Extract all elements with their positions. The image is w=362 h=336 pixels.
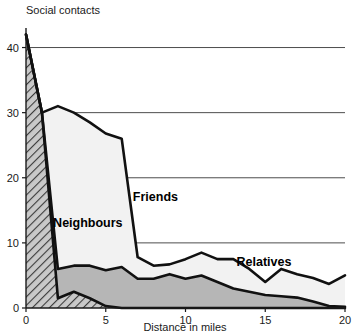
y-axis-title: Social contacts	[26, 4, 100, 16]
chart-container: 05101520 010203040 Social contacts Dista…	[0, 0, 362, 336]
label-friends: Friends	[133, 190, 178, 204]
label-relatives: Relatives	[237, 255, 292, 269]
y-axis-ticks: 010203040	[7, 42, 26, 314]
label-neighbours: Neighbours	[53, 216, 122, 230]
x-axis-title: Distance in miles	[143, 321, 227, 333]
y-tick-label-30: 30	[7, 107, 19, 119]
y-tick-label-10: 10	[7, 237, 19, 249]
x-tick-label-5: 5	[103, 314, 109, 326]
y-tick-label-40: 40	[7, 42, 19, 54]
x-tick-label-20: 20	[339, 314, 351, 326]
y-tick-label-0: 0	[13, 302, 19, 314]
social-contacts-area-chart: 05101520 010203040 Social contacts Dista…	[0, 0, 362, 336]
x-tick-label-15: 15	[259, 314, 271, 326]
y-tick-label-20: 20	[7, 172, 19, 184]
x-tick-label-0: 0	[23, 314, 29, 326]
